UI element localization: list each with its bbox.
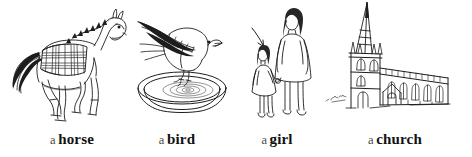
vocabulary-item-bird: abird (118, 0, 236, 157)
caption-article: a (368, 133, 374, 147)
girl-drawing (232, 0, 322, 128)
caption-girl: agirl (232, 131, 322, 147)
caption-noun: girl (270, 131, 293, 147)
illustration-sheet: ahorse (0, 0, 472, 157)
caption-noun: bird (167, 131, 195, 147)
caption-article: a (50, 133, 56, 147)
caption-article: a (159, 133, 165, 147)
vocabulary-item-church: achurch (320, 0, 470, 157)
bird-drawing (118, 0, 236, 128)
caption-article: a (261, 133, 267, 147)
caption-bird: abird (118, 131, 236, 147)
caption-noun: horse (58, 131, 94, 147)
artist-signature (326, 95, 346, 102)
vocabulary-item-girl: agirl (232, 0, 322, 157)
caption-noun: church (376, 131, 422, 147)
pointer-arrow (252, 28, 264, 47)
caption-church: achurch (320, 131, 470, 147)
church-drawing (320, 0, 470, 128)
